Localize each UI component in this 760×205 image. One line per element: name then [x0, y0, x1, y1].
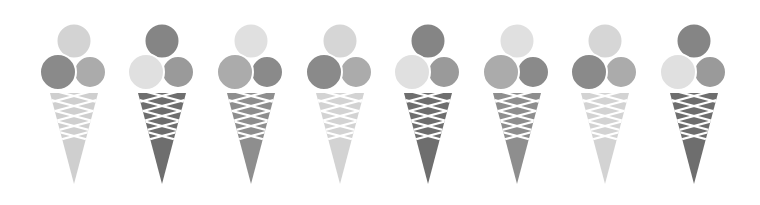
scoop-right: [694, 56, 726, 88]
ice-cream-cone-icon: [483, 24, 549, 185]
scoop-right: [428, 56, 460, 88]
scoop-left: [306, 54, 342, 90]
scoop-right: [162, 56, 194, 88]
scoop-top: [500, 24, 535, 59]
ice-cream-cone-icon: [571, 24, 637, 185]
scoop-right: [251, 56, 283, 88]
scoop-right: [74, 56, 106, 88]
ice-cream-cone-icon: [217, 24, 283, 185]
scoop-right: [340, 56, 372, 88]
scoop-left: [217, 54, 253, 90]
ice-cream-illustration: [0, 0, 760, 205]
scoop-top: [411, 24, 446, 59]
scoop-top: [588, 24, 623, 59]
scoop-top: [145, 24, 180, 59]
ice-cream-row: [0, 0, 760, 205]
scoop-left: [394, 54, 430, 90]
scoop-top: [323, 24, 358, 59]
scoop-left: [483, 54, 519, 90]
ice-cream-cone-icon: [128, 24, 194, 185]
scoop-right: [517, 56, 549, 88]
ice-cream-cone-icon: [40, 24, 106, 185]
ice-cream-cone-icon: [306, 24, 372, 185]
scoop-left: [128, 54, 164, 90]
scoop-top: [57, 24, 92, 59]
scoop-left: [660, 54, 696, 90]
scoop-right: [605, 56, 637, 88]
scoop-top: [234, 24, 269, 59]
ice-cream-cone-icon: [394, 24, 460, 185]
scoop-left: [40, 54, 76, 90]
scoop-top: [677, 24, 712, 59]
ice-cream-cone-icon: [660, 24, 726, 185]
scoop-left: [571, 54, 607, 90]
